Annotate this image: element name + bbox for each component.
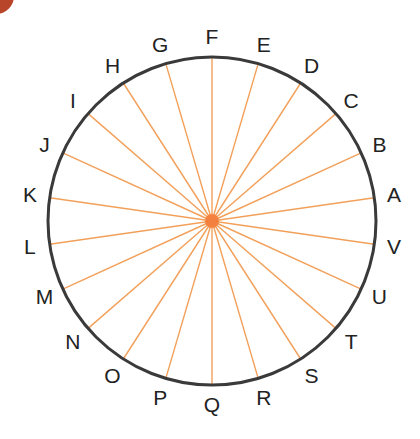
point-label-d: D [304, 54, 319, 77]
spoke-e [212, 64, 258, 221]
point-label-v: V [387, 235, 401, 258]
point-label-m: M [36, 285, 54, 308]
spoke-t [212, 221, 336, 328]
radial-circle-diagram: ABCDEFGHIJKLMNOPQRSTUV [0, 0, 420, 439]
spoke-g [166, 64, 212, 221]
point-label-r: R [256, 386, 271, 409]
point-label-j: J [39, 133, 50, 156]
point-label-h: H [105, 54, 120, 77]
point-label-o: O [104, 364, 120, 387]
point-label-n: N [65, 330, 80, 353]
spoke-n [88, 221, 212, 328]
point-label-e: E [257, 33, 271, 56]
spoke-p [166, 221, 212, 378]
spoke-i [88, 114, 212, 221]
point-label-t: T [345, 330, 358, 353]
spoke-c [212, 114, 336, 221]
point-label-g: G [152, 33, 168, 56]
point-label-u: U [372, 285, 387, 308]
point-label-i: I [70, 89, 76, 112]
point-label-f: F [206, 25, 219, 48]
point-label-b: B [372, 133, 386, 156]
point-label-a: A [387, 183, 401, 206]
point-label-k: K [23, 183, 37, 206]
point-label-l: L [24, 235, 36, 258]
point-label-p: P [153, 386, 167, 409]
point-label-s: S [304, 364, 318, 387]
point-label-q: Q [204, 393, 220, 416]
spoke-r [212, 221, 258, 378]
center-hub [205, 214, 219, 228]
point-label-c: C [344, 89, 359, 112]
